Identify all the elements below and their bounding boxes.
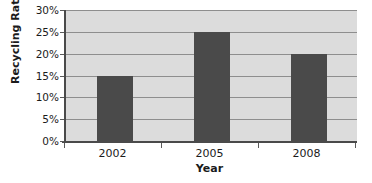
bar-2002 — [97, 76, 133, 142]
y-axis-tick-label: 5% — [28, 114, 59, 124]
bar-2005 — [194, 32, 230, 141]
y-axis-tick-mark — [60, 32, 64, 33]
plot-area — [64, 10, 357, 141]
y-axis-tick-label: 15% — [28, 71, 59, 81]
y-axis-tick-mark — [60, 97, 64, 98]
y-axis-tick-label: 0% — [28, 136, 59, 146]
x-axis-line — [62, 141, 357, 143]
y-axis-tick-mark — [60, 141, 64, 142]
x-axis-tick-mark — [161, 143, 162, 148]
y-axis-tick-mark — [60, 10, 64, 11]
x-axis-category-label: 2005 — [180, 147, 240, 160]
x-axis-tick-mark — [64, 143, 65, 148]
x-axis-category-label: 2008 — [277, 147, 337, 160]
y-axis-tick-labels: 0%5%10%15%20%25%30% — [28, 10, 59, 142]
y-axis-tick-mark — [60, 119, 64, 120]
x-axis-tick-mark — [355, 143, 356, 148]
x-axis-title: Year — [64, 162, 355, 175]
y-axis-tick-label: 30% — [28, 5, 59, 15]
bar-2008 — [291, 54, 327, 141]
y-axis-tick-label: 25% — [28, 27, 59, 37]
plot-top-gridline — [66, 10, 357, 11]
y-axis-tick-mark — [60, 54, 64, 55]
x-axis-category-label: 2002 — [83, 147, 143, 160]
recycling-rate-bar-chart: Recycling Rate 0%5%10%15%20%25%30% Year … — [0, 0, 372, 183]
y-axis-tick-mark — [60, 76, 64, 77]
y-axis-tick-label: 20% — [28, 49, 59, 59]
x-axis-tick-mark — [258, 143, 259, 148]
y-axis-tick-label: 10% — [28, 92, 59, 102]
y-axis-title: Recycling Rate — [8, 0, 24, 98]
